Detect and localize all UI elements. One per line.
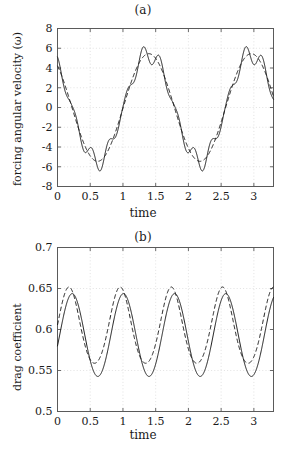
svg-text:2: 2	[46, 82, 53, 95]
svg-text:4: 4	[46, 62, 53, 75]
svg-text:6: 6	[46, 42, 53, 55]
svg-text:-4: -4	[42, 141, 53, 154]
svg-text:2.5: 2.5	[212, 190, 230, 203]
svg-text:0.65: 0.65	[28, 282, 53, 295]
panel-b-x-axis-label: time	[0, 428, 286, 442]
svg-text:0.5: 0.5	[35, 405, 53, 418]
panel-a-y-axis-label: forcing angular velocity (ω)	[11, 32, 24, 186]
svg-text:2: 2	[185, 190, 192, 203]
svg-text:-6: -6	[42, 161, 53, 174]
figure-container: (a) 00.511.522.53-8-6-4-202468 forcing a…	[0, 0, 286, 455]
svg-text:0.5: 0.5	[81, 415, 99, 428]
svg-text:1: 1	[119, 415, 126, 428]
svg-text:0: 0	[46, 101, 53, 114]
svg-text:-2: -2	[42, 121, 53, 134]
svg-text:1.5: 1.5	[147, 415, 165, 428]
svg-text:0.6: 0.6	[35, 323, 53, 336]
svg-text:8: 8	[46, 22, 53, 35]
svg-text:1: 1	[119, 190, 126, 203]
panel-a: (a) 00.511.522.53-8-6-4-202468 forcing a…	[0, 0, 286, 228]
svg-text:3: 3	[250, 415, 257, 428]
svg-text:1.5: 1.5	[147, 190, 165, 203]
svg-text:2: 2	[185, 415, 192, 428]
svg-text:2.5: 2.5	[212, 415, 230, 428]
svg-text:0.7: 0.7	[35, 241, 53, 254]
svg-text:0: 0	[54, 415, 61, 428]
svg-text:0: 0	[54, 190, 61, 203]
svg-text:0.5: 0.5	[81, 190, 99, 203]
svg-text:0.55: 0.55	[28, 364, 53, 377]
panel-b: (b) 00.511.522.530.50.550.60.650.7 drag …	[0, 228, 286, 455]
svg-text:-8: -8	[42, 180, 53, 193]
panel-a-x-axis-label: time	[0, 206, 286, 220]
panel-b-y-axis-label: drag coefficient	[11, 303, 24, 391]
panel-a-plot: 00.511.522.53-8-6-4-202468	[0, 0, 286, 228]
svg-text:3: 3	[250, 190, 257, 203]
panel-b-plot: 00.511.522.530.50.550.60.650.7	[0, 228, 286, 455]
